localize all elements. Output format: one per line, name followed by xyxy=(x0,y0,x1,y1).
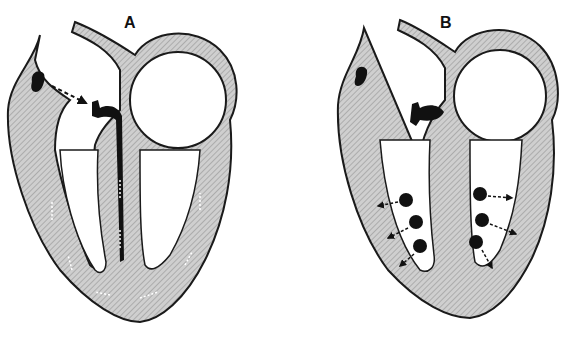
heart-b xyxy=(338,20,558,318)
panel-label-a: A xyxy=(124,14,136,32)
heart-conduction-diagram: A B xyxy=(0,0,568,337)
heart-a xyxy=(8,22,237,322)
panel-label-b: B xyxy=(440,14,452,32)
